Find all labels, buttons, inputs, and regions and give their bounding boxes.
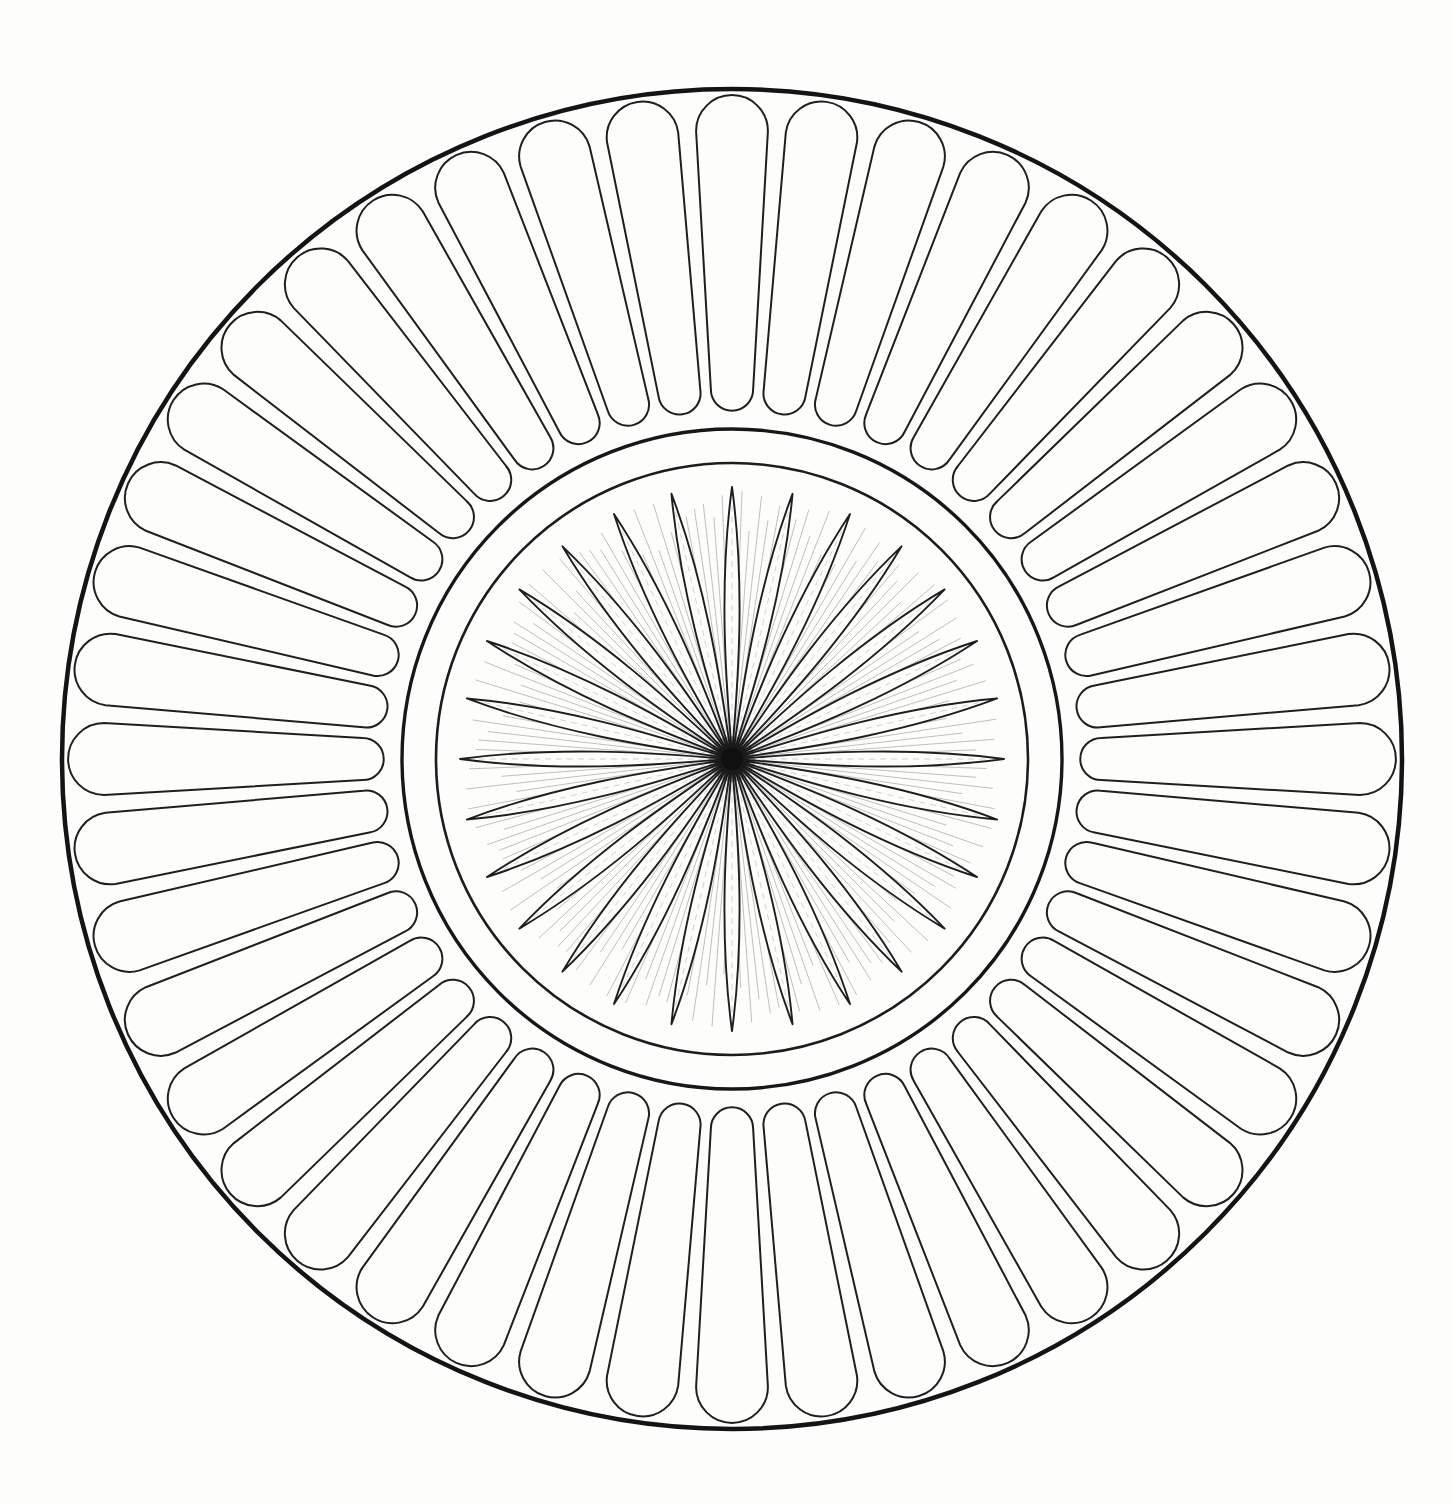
center-hub-group bbox=[709, 736, 755, 782]
mandala-drawing bbox=[0, 0, 1452, 1505]
center-hub bbox=[721, 748, 743, 770]
mandala-canvas bbox=[0, 0, 1452, 1505]
